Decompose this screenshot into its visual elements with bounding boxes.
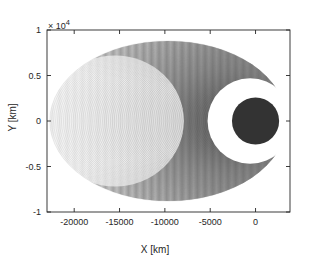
y-axis-exponent: × 104 xyxy=(48,18,70,31)
orbit-plot xyxy=(0,0,310,268)
central-body xyxy=(232,97,279,144)
x-tick-label: -5000 xyxy=(199,218,222,227)
x-tick-label: -15000 xyxy=(106,218,134,227)
y-tick-label: -0.5 xyxy=(12,162,41,171)
figure-canvas: × 104 10.50-0.5-1 -20000-15000-10000-500… xyxy=(0,0,310,268)
y-tick-label: 1 xyxy=(12,26,41,35)
y-axis-exponent-base: × 10 xyxy=(48,21,66,31)
y-axis-exponent-power: 4 xyxy=(66,18,70,27)
x-axis-label: X [km] xyxy=(0,244,310,255)
x-tick-label: -20000 xyxy=(60,218,88,227)
x-tick-label: 0 xyxy=(253,218,258,227)
x-tick-label: -10000 xyxy=(151,218,179,227)
y-tick-label: -1 xyxy=(12,208,41,217)
y-tick-label: 0.5 xyxy=(12,71,41,80)
y-axis-label: Y [km] xyxy=(7,82,18,154)
